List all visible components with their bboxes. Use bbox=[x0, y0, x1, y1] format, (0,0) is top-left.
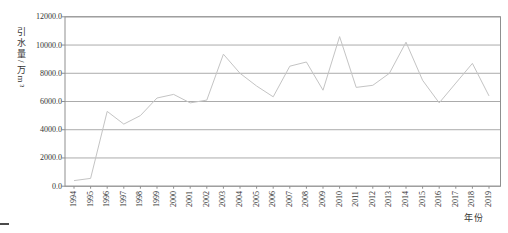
x-tick-label: 2016 bbox=[434, 188, 444, 210]
y-tick-label: 6000.0 bbox=[22, 97, 62, 106]
x-tick-label: 1996 bbox=[102, 188, 112, 210]
x-tick-label: 2014 bbox=[401, 188, 411, 210]
x-tick-label: 2007 bbox=[285, 188, 295, 210]
x-tick-label: 2010 bbox=[335, 188, 345, 210]
x-tick-label: 1998 bbox=[135, 188, 145, 210]
y-axis-title: 引水量/万m³ bbox=[15, 27, 28, 89]
y-tick-label: 2000.0 bbox=[22, 153, 62, 162]
data-line-引水量 bbox=[74, 37, 489, 181]
y-tick-label: 0.0 bbox=[22, 182, 62, 191]
x-tick-label: 2000 bbox=[169, 188, 179, 210]
x-tick-label: 2015 bbox=[418, 188, 428, 210]
x-tick-label: 2006 bbox=[268, 188, 278, 210]
x-tick-label: 2017 bbox=[451, 188, 461, 210]
x-axis-title: 年份 bbox=[464, 211, 484, 224]
x-tick-label: 1997 bbox=[119, 188, 129, 210]
y-tick-label: 8000.0 bbox=[22, 69, 62, 78]
x-tick-label: 2018 bbox=[467, 188, 477, 210]
x-tick-label: 2002 bbox=[202, 188, 212, 210]
x-tick-label: 2004 bbox=[235, 188, 245, 210]
x-tick-label: 2005 bbox=[252, 188, 262, 210]
x-tick-label: 2009 bbox=[318, 188, 328, 210]
x-tick-label: 2003 bbox=[218, 188, 228, 210]
corner-artifact bbox=[0, 223, 9, 225]
x-tick-label: 2013 bbox=[384, 188, 394, 210]
x-tick-label: 2019 bbox=[484, 188, 494, 210]
x-tick-label: 1994 bbox=[69, 188, 79, 210]
y-tick-label: 12000.0 bbox=[22, 12, 62, 21]
x-tick-label: 2008 bbox=[301, 188, 311, 210]
x-tick-label: 1995 bbox=[86, 188, 96, 210]
y-tick-label: 10000.0 bbox=[22, 41, 62, 50]
y-tick-label: 4000.0 bbox=[22, 125, 62, 134]
x-tick-label: 1999 bbox=[152, 188, 162, 210]
x-tick-label: 2012 bbox=[368, 188, 378, 210]
x-tick-label: 2001 bbox=[185, 188, 195, 210]
line-chart: 引水量/万m³ 0.02000.04000.06000.08000.010000… bbox=[0, 0, 508, 233]
x-tick-label: 2011 bbox=[351, 188, 361, 210]
